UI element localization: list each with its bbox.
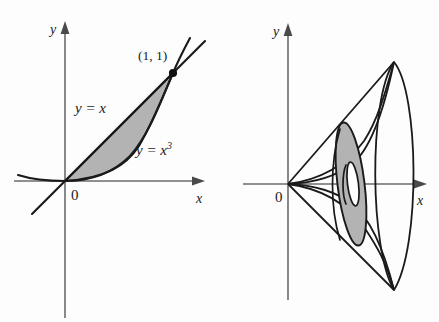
left-x-axis: x (14, 177, 205, 206)
left-label-y-equals-x: y = x (73, 100, 106, 116)
right-x-axis-arrow-icon (414, 180, 427, 189)
left-point-label: (1, 1) (138, 48, 167, 63)
left-x-axis-label: x (195, 191, 203, 206)
left-y-axis: y (48, 21, 69, 318)
right-panel-solid-plot: y x 0 (243, 23, 427, 300)
left-panel-region-plot: y x (1, 1) y = x y = x3 0 (14, 21, 205, 318)
left-y-axis-label: y (48, 22, 57, 37)
right-origin-label: 0 (275, 189, 283, 205)
right-y-axis-arrow-icon (284, 23, 293, 36)
right-x-axis-label: x (416, 193, 424, 208)
right-y-axis-label: y (271, 24, 280, 39)
left-x-axis-arrow-icon (192, 177, 205, 186)
left-y-axis-arrow-icon (61, 21, 70, 34)
right-y-axis: y (271, 23, 292, 300)
left-label-y-equals-x-cubed: y = x3 (134, 140, 172, 158)
math-figure-svg: y x (1, 1) y = x y = x3 0 (0, 0, 439, 322)
left-intersection-point-dot (169, 69, 177, 77)
left-curve-y-equals-x (32, 41, 205, 214)
left-label-cubed-exponent: 3 (166, 140, 172, 151)
left-label-cubed-base: y = x (134, 142, 167, 158)
figure-root: y x (1, 1) y = x y = x3 0 (0, 0, 439, 322)
left-origin-label: 0 (71, 187, 79, 203)
